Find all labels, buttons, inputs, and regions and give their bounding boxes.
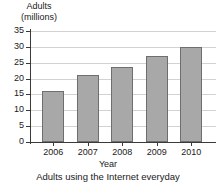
plot-area: [30, 31, 216, 142]
x-axis-tick-mark: [191, 142, 192, 146]
y-axis-tick-mark: [26, 79, 30, 80]
x-axis-tick-label: 2010: [171, 147, 211, 157]
bar: [146, 56, 168, 142]
y-axis-tick-label: 30: [4, 42, 24, 51]
x-axis-tick-mark: [53, 142, 54, 146]
y-axis-tick-mark: [26, 126, 30, 127]
y-axis-tick-mark: [26, 63, 30, 64]
bar: [77, 75, 99, 142]
bar-chart-figure: Adults (millions) Year Adults using the …: [0, 0, 216, 184]
y-axis-tick-mark: [26, 110, 30, 111]
y-axis-title-line-2: (millions): [8, 12, 70, 23]
y-axis-tick-label: 20: [4, 74, 24, 83]
bar: [180, 47, 202, 142]
x-axis-tick-mark: [122, 142, 123, 146]
y-axis-title-line-1: Adults: [8, 1, 70, 12]
gridline: [30, 31, 216, 32]
y-axis-tick-mark: [26, 31, 30, 32]
x-axis-tick-mark: [157, 142, 158, 146]
y-axis-tick-mark: [26, 47, 30, 48]
chart-caption: Adults using the Internet everyday: [0, 171, 216, 182]
y-axis-tick-label: 35: [4, 26, 24, 35]
y-axis-tick-mark: [26, 142, 30, 143]
x-axis-title: Year: [0, 159, 216, 169]
y-axis-line: [30, 29, 31, 144]
x-axis-tick-mark: [88, 142, 89, 146]
bar: [42, 91, 64, 142]
bar: [111, 67, 133, 142]
y-axis-tick-label: 15: [4, 89, 24, 98]
y-axis-tick-label: 5: [4, 121, 24, 130]
y-axis-title: Adults (millions): [8, 1, 70, 22]
y-axis-tick-label: 10: [4, 105, 24, 114]
y-axis-tick-label: 25: [4, 58, 24, 67]
y-axis-tick-mark: [26, 94, 30, 95]
y-axis-tick-label: 0: [4, 137, 24, 146]
